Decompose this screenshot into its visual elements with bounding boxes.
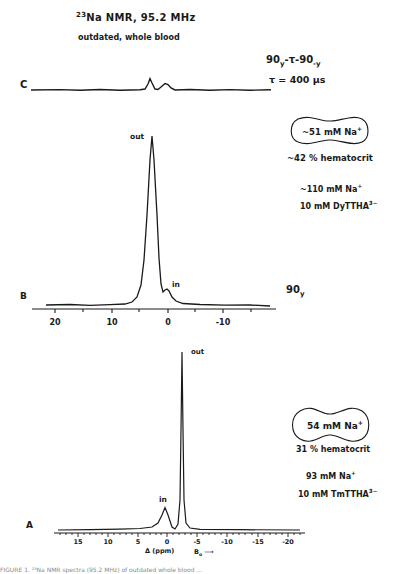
charge: +: [358, 419, 363, 426]
tick-label: -15: [252, 538, 264, 546]
reagent-text: 10 mM DyTTHA: [300, 202, 369, 211]
intracellular-na-a: 54 mM Na+: [307, 419, 363, 431]
na-text: 93 mM Na: [306, 472, 351, 481]
pulse-mid: -τ-90: [285, 54, 314, 65]
shift-reagent-a: 10 mM TmTTHA3−: [298, 488, 377, 499]
charge: +: [357, 125, 362, 132]
panel-a-label: A: [26, 520, 33, 530]
tick-label: 0: [165, 538, 170, 546]
tick-label: -10: [221, 538, 233, 546]
tick-label: 10: [103, 538, 112, 546]
peak-in-label-a: in: [159, 495, 167, 504]
hematocrit-a: 31 % hematocrit: [296, 445, 370, 454]
spectrum-a-line: [58, 352, 300, 530]
spectrum-c-line: [31, 79, 271, 91]
b-field-sub: o: [199, 552, 202, 557]
tick-label: 15: [73, 538, 82, 546]
spectrum-b-line: [46, 136, 270, 306]
shift-reagent-b: 10 mM DyTTHA3−: [300, 200, 377, 211]
x-axis-label: Δ (ppm): [145, 547, 174, 555]
reagent-text: 10 mM TmTTHA: [298, 490, 369, 499]
field-direction-label: Bo ⟶: [194, 548, 214, 557]
peak-out-label-a: out: [191, 348, 204, 356]
panel-b-label: B: [20, 291, 27, 301]
figure-caption-fragment: FIGURE 1. ²³Na NMR spectra (95.2 MHz) of…: [0, 566, 401, 574]
tick-label: 0: [165, 318, 171, 327]
arrow-right-icon: ⟶: [204, 548, 213, 556]
charge: 3−: [369, 488, 378, 494]
tick-label: -5: [193, 538, 200, 546]
panel-c-label: C: [20, 79, 27, 90]
peak-out-label-b: out: [130, 132, 144, 141]
hematocrit-b: ~42 % hematocrit: [287, 153, 373, 163]
pulse-angle: 90: [286, 284, 300, 295]
peak-in-label-b: in: [172, 280, 180, 289]
tick-label: -10: [216, 318, 230, 327]
pulse-b: 90y: [286, 284, 305, 298]
tick-label: 20: [49, 318, 60, 327]
pulse-sequence-c: 90y-τ-90-y: [266, 54, 321, 68]
charge: 3−: [369, 200, 378, 206]
charge: +: [351, 470, 356, 476]
intracellular-na-b: ~51 mM Na+: [302, 125, 362, 137]
extracellular-na-a: 93 mM Na+: [306, 470, 356, 481]
blob-text: 54 mM Na: [307, 421, 358, 431]
tau-value: τ = 400 μs: [269, 74, 325, 85]
tick-label: 5: [136, 538, 141, 546]
tick-label: 10: [106, 318, 117, 327]
pulse-b-phase: -y: [313, 60, 320, 68]
extracellular-na-b: ~110 mM Na+: [300, 183, 362, 194]
na-text: ~110 mM Na: [300, 185, 357, 194]
pulse-phase: y: [300, 290, 305, 298]
tick-label: -20: [282, 538, 294, 546]
charge: +: [357, 183, 362, 189]
pulse-a: 90: [266, 54, 280, 65]
blob-text: ~51 mM Na: [302, 127, 357, 137]
